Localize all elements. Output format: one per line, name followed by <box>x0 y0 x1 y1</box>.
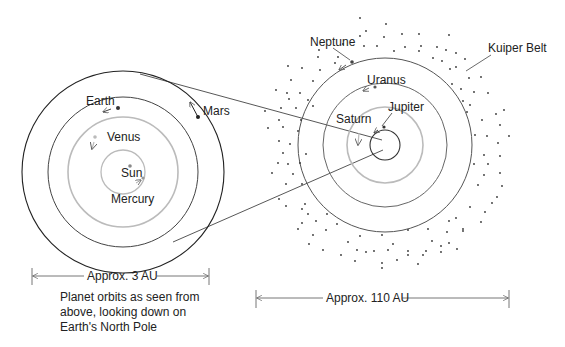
scale-label-110au: Approx. 110 AU <box>326 292 409 304</box>
earth-direction-arrow <box>103 109 111 112</box>
jupiter-leader <box>382 113 392 126</box>
kuiper-leader <box>466 55 491 71</box>
kuiper-belt-label: Kuiper Belt <box>488 42 547 54</box>
mars-direction-arrow <box>190 102 198 117</box>
earth-label: Earth <box>86 95 115 107</box>
outer-system <box>256 17 510 308</box>
neptune-dot <box>350 60 354 64</box>
neptune-label: Neptune <box>310 36 355 48</box>
venus-direction-arrow <box>92 142 94 149</box>
uranus-label: Uranus <box>367 74 406 86</box>
jupiter-label: Jupiter <box>388 101 424 113</box>
orbit-caption: Planet orbits as seen from above, lookin… <box>60 290 220 335</box>
scale-label-3au: Approx. 3 AU <box>87 270 158 282</box>
venus-label: Venus <box>107 131 140 143</box>
uranus-direction-arrow <box>363 88 369 91</box>
kuiper-belt-dots <box>264 17 510 269</box>
jupiter-dot <box>382 125 385 128</box>
uranus-orbit <box>323 83 447 207</box>
zoom-connector-top <box>140 74 382 140</box>
sun-label: Sun <box>121 167 142 179</box>
mercury-label: Mercury <box>111 193 154 205</box>
saturn-direction-arrow <box>358 133 359 145</box>
jupiter-orbit <box>370 130 400 160</box>
mars-label: Mars <box>203 105 230 117</box>
saturn-label: Saturn <box>336 113 371 125</box>
venus-dot <box>93 135 97 139</box>
earth-dot <box>116 106 120 110</box>
mercury-direction-arrow <box>136 180 141 183</box>
solar-system-diagram: Earth Mars Venus Sun Mercury Approx. 3 A… <box>0 0 565 347</box>
neptune-leader <box>333 48 350 60</box>
